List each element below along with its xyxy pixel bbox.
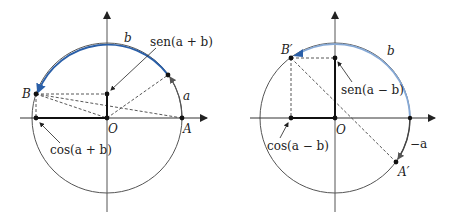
dashed-B-to-A (36, 94, 182, 118)
label-b: b (387, 44, 395, 58)
arc-b-arrowhead (293, 49, 303, 57)
right-diagram: B′ b sen(a − b) O −a A′ cos(a − b) (250, 12, 435, 212)
point-B (34, 92, 39, 97)
label-minus-a: −a (410, 137, 427, 151)
label-sen: sen(a − b) (341, 83, 404, 97)
dashed-B-to-O (36, 94, 107, 118)
dashed-O-to-P (107, 75, 168, 118)
point-O (105, 116, 110, 121)
point-P (166, 73, 171, 78)
unit-circle-diagrams: b sen(a + b) a B O A cos(a + b) (0, 0, 460, 222)
label-A: A (182, 122, 192, 136)
arc-a (170, 77, 182, 118)
label-cos: cos(a − b) (267, 139, 329, 153)
point-A-prime (394, 160, 399, 165)
arc-minus-a (398, 118, 410, 159)
left-diagram: b sen(a + b) a B O A cos(a + b) (20, 12, 213, 212)
label-b: b (124, 31, 132, 45)
label-B: B (21, 87, 31, 101)
label-O: O (108, 122, 118, 136)
label-O: O (336, 123, 346, 137)
point-A (180, 116, 185, 121)
arc-b (38, 45, 168, 92)
sen-leader (111, 48, 156, 90)
label-A-prime: A′ (397, 165, 410, 179)
point-cos (34, 116, 39, 121)
point-start (408, 116, 412, 120)
label-B-prime: B′ (280, 43, 293, 57)
point-O (333, 116, 338, 121)
cos-leader (40, 123, 60, 143)
label-a: a (183, 89, 190, 103)
point-cos (289, 116, 294, 121)
cos-leader (280, 123, 288, 138)
sen-leader (338, 62, 352, 82)
point-sen (333, 56, 338, 61)
label-cos: cos(a + b) (50, 143, 112, 157)
point-sen (105, 92, 110, 97)
label-sen: sen(a + b) (150, 35, 213, 49)
